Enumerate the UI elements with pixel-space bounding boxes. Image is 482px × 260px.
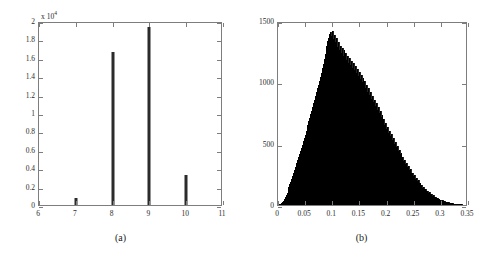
- x-tick: [305, 201, 306, 205]
- x-tick: [113, 201, 114, 205]
- y-tick: [39, 207, 43, 208]
- stem-bar: [148, 27, 151, 205]
- y-tick-mirror: [217, 41, 221, 42]
- y-tick: [278, 84, 282, 85]
- y-tick-mirror: [217, 133, 221, 134]
- x-tick-mirror: [414, 23, 415, 27]
- y-tick-label: 1.8: [10, 37, 35, 45]
- y-tick-mirror: [217, 97, 221, 98]
- y-tick-label: 0.8: [10, 129, 35, 137]
- x-tick-mirror: [387, 23, 388, 27]
- x-tick: [186, 201, 187, 205]
- y-tick: [278, 207, 282, 208]
- x-tick: [441, 201, 442, 205]
- x-tick-mirror: [39, 23, 40, 27]
- x-tick-label: 0.1: [327, 210, 336, 218]
- panel-b: 05001000150000.050.10.150.20.250.30.35 (…: [241, 0, 482, 260]
- y-tick-mirror: [217, 115, 221, 116]
- y-tick-mirror: [217, 189, 221, 190]
- y-tick-label: 0: [10, 202, 35, 210]
- y-tick: [39, 133, 43, 134]
- y-tick: [278, 146, 282, 147]
- y-tick: [39, 41, 43, 42]
- x-tick: [39, 201, 40, 205]
- x-tick-mirror: [223, 23, 224, 27]
- x-tick-label: 8: [110, 210, 114, 218]
- y-tick: [39, 60, 43, 61]
- x-tick: [332, 201, 333, 205]
- caption-b: (b): [241, 232, 482, 243]
- y-tick-label: 500: [245, 141, 274, 149]
- y-tick-label: 0.2: [10, 184, 35, 192]
- x-tick: [414, 201, 415, 205]
- x-tick-mirror: [113, 23, 114, 27]
- y-tick: [39, 97, 43, 98]
- x-tick: [223, 201, 224, 205]
- y-tick-label: 2: [10, 18, 35, 26]
- y-tick-label: 0.4: [10, 165, 35, 173]
- caption-a: (a): [0, 232, 241, 243]
- y-axis-multiplier-label: x 104: [41, 11, 57, 20]
- y-tick-label: 1.2: [10, 92, 35, 100]
- y-tick-label: 1.4: [10, 73, 35, 81]
- x-tick-mirror: [468, 23, 469, 27]
- x-tick-label: 0.05: [298, 210, 311, 218]
- y-tick-label: 1000: [245, 80, 274, 88]
- x-tick-mirror: [278, 23, 279, 27]
- y-tick-mirror: [462, 23, 466, 24]
- y-tick-label: 0.6: [10, 147, 35, 155]
- multiplier-text: x 10: [41, 12, 54, 21]
- y-tick-label: 1: [10, 110, 35, 118]
- y-tick-label: 1.6: [10, 55, 35, 63]
- x-tick-label: 10: [181, 210, 189, 218]
- y-tick-mirror: [217, 152, 221, 153]
- y-tick-mirror: [217, 78, 221, 79]
- y-tick-mirror: [462, 207, 466, 208]
- x-tick-mirror: [305, 23, 306, 27]
- y-tick-mirror: [217, 23, 221, 24]
- y-tick-mirror: [217, 60, 221, 61]
- x-tick-mirror: [76, 23, 77, 27]
- y-tick-mirror: [462, 146, 466, 147]
- x-tick-label: 11: [218, 210, 225, 218]
- y-tick-mirror: [217, 207, 221, 208]
- x-tick-label: 0.3: [435, 210, 444, 218]
- plot-area-b: [277, 22, 467, 206]
- multiplier-exponent: 4: [54, 10, 57, 16]
- y-tick: [39, 152, 43, 153]
- y-tick-label: 1500: [245, 18, 274, 26]
- stem-bar: [111, 52, 114, 205]
- x-tick-mirror: [441, 23, 442, 27]
- x-tick-label: 0.25: [406, 210, 419, 218]
- x-tick-mirror: [359, 23, 360, 27]
- y-tick-mirror: [217, 170, 221, 171]
- x-tick: [278, 201, 279, 205]
- x-tick: [149, 201, 150, 205]
- plot-area-a: [38, 22, 222, 206]
- x-tick: [76, 201, 77, 205]
- x-tick-label: 0.15: [352, 210, 365, 218]
- x-tick-mirror: [149, 23, 150, 27]
- stem-series: [39, 23, 221, 205]
- figure-container: x 104 00.20.40.60.811.21.41.61.826789101…: [0, 0, 482, 260]
- x-tick-label: 9: [147, 210, 151, 218]
- y-tick: [39, 115, 43, 116]
- y-tick-label: 0: [245, 202, 274, 210]
- x-tick-label: 0: [275, 210, 279, 218]
- x-tick-label: 0.35: [460, 210, 473, 218]
- x-tick: [468, 201, 469, 205]
- y-tick: [39, 78, 43, 79]
- x-tick-label: 7: [73, 210, 77, 218]
- y-tick-mirror: [462, 84, 466, 85]
- histogram-series: [278, 23, 466, 205]
- x-tick: [359, 201, 360, 205]
- x-tick-label: 6: [36, 210, 40, 218]
- x-tick-mirror: [332, 23, 333, 27]
- x-tick: [387, 201, 388, 205]
- y-tick: [39, 189, 43, 190]
- x-tick-label: 0.2: [381, 210, 390, 218]
- y-tick: [39, 170, 43, 171]
- x-tick-mirror: [186, 23, 187, 27]
- panel-a: x 104 00.20.40.60.811.21.41.61.826789101…: [0, 0, 241, 260]
